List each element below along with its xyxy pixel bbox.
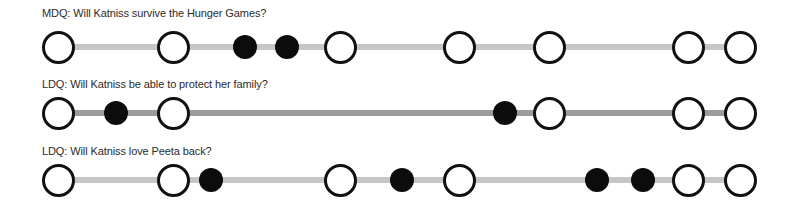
filled-circle-node: [585, 168, 609, 192]
filled-circle-node: [631, 168, 655, 192]
question-label-mdq: MDQ: Will Katniss survive the Hunger Gam…: [42, 7, 266, 20]
timeline-mdq: [0, 27, 789, 67]
filled-circle-node: [233, 35, 257, 59]
open-circle-node: [42, 97, 75, 130]
open-circle-node: [157, 164, 190, 197]
open-circle-node: [443, 31, 476, 64]
timeline-ldq-peeta: [0, 160, 789, 200]
filled-circle-node: [104, 101, 128, 125]
open-circle-node: [533, 31, 566, 64]
open-circle-node: [533, 97, 566, 130]
open-circle-node: [42, 164, 75, 197]
timeline-ldq-family: [0, 93, 789, 133]
open-circle-node: [443, 164, 476, 197]
open-circle-node: [157, 97, 190, 130]
open-circle-node: [672, 97, 705, 130]
filled-circle-node: [390, 168, 414, 192]
open-circle-node: [672, 31, 705, 64]
open-circle-node: [724, 97, 757, 130]
open-circle-node: [724, 164, 757, 197]
open-circle-node: [324, 31, 357, 64]
open-circle-node: [672, 164, 705, 197]
open-circle-node: [724, 31, 757, 64]
open-circle-node: [157, 31, 190, 64]
open-circle-node: [324, 164, 357, 197]
filled-circle-node: [275, 35, 299, 59]
question-label-ldq-family: LDQ: Will Katniss be able to protect her…: [42, 78, 268, 91]
filled-circle-node: [493, 101, 517, 125]
open-circle-node: [42, 31, 75, 64]
question-label-ldq-peeta: LDQ: Will Katniss love Peeta back?: [42, 145, 212, 158]
filled-circle-node: [199, 168, 223, 192]
